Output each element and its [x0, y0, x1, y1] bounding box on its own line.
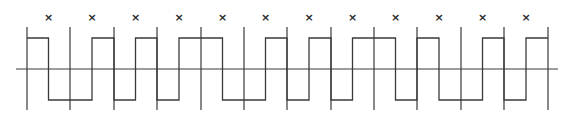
mid-bit-x-marker-icon: ×	[348, 11, 357, 24]
mid-bit-x-marker-icon: ×	[261, 11, 270, 24]
mid-bit-x-marker-icon: ×	[521, 11, 530, 24]
mid-bit-x-marker-icon: ×	[478, 11, 487, 24]
mid-bit-markers: ××××××××××××	[44, 11, 531, 24]
mid-bit-x-marker-icon: ×	[218, 11, 227, 24]
mid-bit-x-marker-icon: ×	[174, 11, 183, 24]
manchester-waveform-diagram: ××××××××××××	[0, 0, 566, 120]
mid-bit-x-marker-icon: ×	[391, 11, 400, 24]
mid-bit-x-marker-icon: ×	[44, 11, 53, 24]
mid-bit-x-marker-icon: ×	[87, 11, 96, 24]
mid-bit-x-marker-icon: ×	[434, 11, 443, 24]
mid-bit-x-marker-icon: ×	[304, 11, 313, 24]
mid-bit-x-marker-icon: ×	[131, 11, 140, 24]
